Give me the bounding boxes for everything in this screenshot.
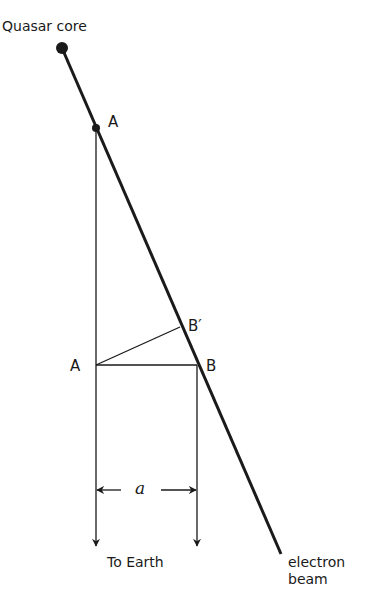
quasar-core-dot bbox=[56, 42, 68, 54]
line-a-b-prime bbox=[96, 327, 180, 365]
point-a-top-label: A bbox=[108, 114, 118, 130]
electron-beam-line bbox=[62, 48, 281, 554]
electron-beam-label-line2: beam bbox=[288, 571, 328, 587]
point-b-prime-label: B′ bbox=[188, 318, 202, 334]
point-b-label: B bbox=[206, 358, 216, 374]
to-earth-label: To Earth bbox=[107, 554, 164, 570]
quasar-core-label: Quasar core bbox=[2, 18, 87, 34]
point-a-mid-label: A bbox=[70, 358, 80, 374]
electron-beam-label-line1: electron bbox=[288, 554, 345, 570]
diagram-canvas bbox=[0, 0, 379, 598]
separation-label: a bbox=[135, 480, 145, 496]
